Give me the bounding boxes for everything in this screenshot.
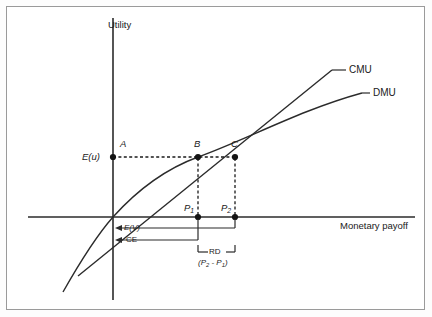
figure-container: Utility Monetary payoff CMU DMU E(u) A B… bbox=[0, 0, 432, 317]
cmu-line bbox=[78, 70, 332, 276]
point-marker-eu bbox=[110, 154, 116, 160]
dashed-guides bbox=[113, 157, 235, 216]
point-label-p2: P2 bbox=[221, 203, 231, 215]
expected-value-label: E(V) bbox=[124, 224, 140, 232]
point-label-a: A bbox=[120, 139, 126, 149]
ev-arrow-head bbox=[115, 225, 122, 231]
expected-utility-label: E(u) bbox=[82, 152, 100, 162]
plot-canvas bbox=[0, 0, 432, 317]
y-axis-label: Utility bbox=[108, 20, 131, 30]
point-marker-c bbox=[232, 154, 238, 160]
formula-close-paren: ) bbox=[225, 258, 228, 267]
point-label-c: C bbox=[231, 139, 238, 149]
certainty-equivalent-label: CE bbox=[126, 236, 137, 244]
ce-arrow-head bbox=[115, 237, 122, 243]
cmu-curve-label: CMU bbox=[349, 65, 372, 75]
x-axis-label: Monetary payoff bbox=[340, 221, 408, 231]
risk-discount-label: RD bbox=[209, 248, 221, 256]
point-marker-b bbox=[195, 154, 201, 160]
point-label-p1: P1 bbox=[184, 203, 194, 215]
point-label-b: B bbox=[194, 139, 200, 149]
dmu-curve-label: DMU bbox=[373, 88, 396, 98]
risk-discount-formula: (P2 - P1) bbox=[198, 259, 228, 268]
point-markers bbox=[110, 154, 238, 220]
point-label-p2-subscript: 2 bbox=[227, 207, 231, 214]
point-label-p1-subscript: 1 bbox=[190, 207, 194, 214]
